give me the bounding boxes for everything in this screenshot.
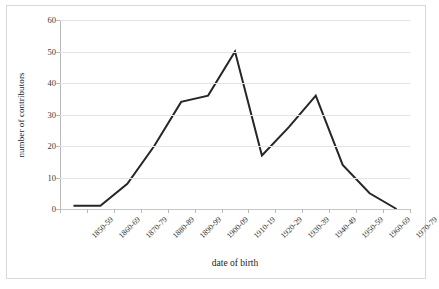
x-tick-label-1910-19: 1910-19 — [252, 215, 277, 240]
x-tick-label-1930-39: 1930-39 — [306, 215, 331, 240]
x-axis-title: date of birth — [60, 258, 410, 268]
y-tick-label-10: 10 — [30, 173, 56, 183]
y-tick-label-50: 50 — [30, 47, 56, 57]
gridline-50 — [60, 52, 410, 53]
x-tick-label-1850-59: 1850-59 — [90, 215, 115, 240]
y-tick-label-30: 30 — [30, 110, 56, 120]
gridline-40 — [60, 83, 410, 84]
gridline-60 — [60, 20, 410, 21]
y-tick-label-20: 20 — [30, 141, 56, 151]
x-tick-label-1870-79: 1870-79 — [144, 215, 169, 240]
y-axis-tick-labels: 0102030405060 — [28, 20, 56, 209]
gridline-10 — [60, 178, 410, 179]
x-axis-tick-labels: 1850-591860-691870-791880-891890-991900-… — [60, 213, 411, 257]
x-tick-label-1950-59: 1950-59 — [359, 215, 384, 240]
gridline-30 — [60, 115, 410, 116]
x-tick-label-1890-99: 1890-99 — [198, 215, 223, 240]
y-tick-label-40: 40 — [30, 78, 56, 88]
gridline-20 — [60, 146, 410, 147]
series-line-number-of-contributors — [73, 52, 396, 210]
x-tick-label-1900-09: 1900-09 — [225, 215, 250, 240]
y-tick-label-60: 60 — [30, 15, 56, 25]
y-axis-title: number of contributors — [16, 50, 26, 180]
y-tick-label-0: 0 — [30, 204, 56, 214]
plot-area — [60, 20, 410, 209]
x-tick-label-1860-69: 1860-69 — [117, 215, 142, 240]
x-tick-label-1960-69: 1960-69 — [386, 215, 411, 240]
x-tick-label-1920-29: 1920-29 — [279, 215, 304, 240]
x-tick-label-1940-49: 1940-49 — [333, 215, 358, 240]
x-tick-label-1880-89: 1880-89 — [171, 215, 196, 240]
